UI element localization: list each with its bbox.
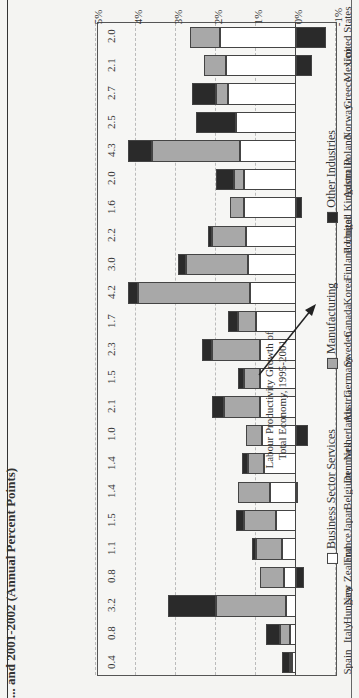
y-tick-label: 0% xyxy=(292,2,304,32)
total-growth-label: 2.3 xyxy=(105,336,117,362)
legend-label: Other Industries xyxy=(324,130,338,208)
bar-segment-manufacturing xyxy=(260,567,284,588)
bar-segment-manufacturing xyxy=(244,510,276,531)
bar-segment-business-sector-services xyxy=(282,538,296,559)
bar-segment-other-industries xyxy=(296,567,304,588)
legend: Business Sector ServicesManufacturingOth… xyxy=(324,70,339,564)
total-growth-label: 3.2 xyxy=(105,592,117,618)
bar-segment-manufacturing xyxy=(256,538,282,559)
bar-segment-manufacturing xyxy=(224,396,260,417)
total-growth-label: 1.7 xyxy=(105,308,117,334)
total-growth-label: 2.0 xyxy=(105,23,117,49)
bar-segment-business-sector-services xyxy=(284,567,296,588)
bar-segment-manufacturing xyxy=(230,197,244,218)
bar-segment-business-sector-services xyxy=(236,112,296,133)
bar-segment-other-industries xyxy=(192,83,216,104)
bar-segment-other-industries xyxy=(252,538,256,559)
bar-segment-other-industries xyxy=(236,510,244,531)
bar-segment-business-sector-services xyxy=(292,652,296,673)
bar-segment-manufacturing xyxy=(248,453,264,474)
bar-segment-other-industries xyxy=(216,169,234,190)
bar-segment-other-industries xyxy=(238,368,244,389)
total-growth-label: 3.0 xyxy=(105,251,117,277)
total-growth-label: 0.8 xyxy=(105,563,117,589)
bar-segment-manufacturing xyxy=(290,652,292,673)
y-tick-label: 2% xyxy=(212,2,224,32)
bar-segment-other-industries xyxy=(128,282,138,303)
bar-segment-other-industries xyxy=(266,624,280,645)
total-growth-label: 1.1 xyxy=(105,535,117,561)
bar-segment-business-sector-services xyxy=(228,83,296,104)
bar-segment-other-industries xyxy=(168,595,216,616)
bar-segment-business-sector-services xyxy=(286,595,296,616)
gridline xyxy=(175,23,176,675)
bar-segment-business-sector-services xyxy=(226,55,296,76)
bar-segment-other-industries xyxy=(202,339,212,360)
category-label: United States xyxy=(341,0,353,76)
bar-segment-business-sector-services xyxy=(240,140,296,161)
total-growth-label: 2.1 xyxy=(105,52,117,78)
total-growth-label: 2.5 xyxy=(105,109,117,135)
bar-segment-manufacturing xyxy=(212,226,246,247)
bar-segment-business-sector-services xyxy=(270,482,296,503)
gridline xyxy=(95,23,96,675)
total-growth-label: 2.0 xyxy=(105,165,117,191)
bar-segment-other-industries xyxy=(208,226,212,247)
total-growth-label: 1.6 xyxy=(105,194,117,220)
bar-segment-manufacturing xyxy=(216,83,228,104)
legend-swatch-icon xyxy=(327,212,338,223)
bar-segment-business-sector-services xyxy=(244,197,296,218)
bar-segment-manufacturing xyxy=(246,425,262,446)
bar-segment-manufacturing xyxy=(280,624,290,645)
total-growth-label: 0.4 xyxy=(105,649,117,675)
y-tick-label: 1% xyxy=(252,2,264,32)
total-growth-label: 1.5 xyxy=(105,507,117,533)
bar-segment-business-sector-services xyxy=(276,510,296,531)
total-growth-label: 1.4 xyxy=(105,450,117,476)
bar-segment-other-industries xyxy=(212,396,224,417)
bar-segment-business-sector-services xyxy=(244,169,296,190)
legend-item: Business Sector Services xyxy=(324,429,338,564)
bar-segment-manufacturing xyxy=(216,595,286,616)
legend-label: Business Sector Services xyxy=(324,429,338,549)
bar-segment-business-sector-services xyxy=(290,624,296,645)
y-tick-label: 5% xyxy=(92,2,104,32)
bar-segment-other-industries xyxy=(178,254,186,275)
bar-segment-manufacturing xyxy=(238,482,270,503)
total-growth-label: 2.1 xyxy=(105,393,117,419)
total-growth-label: 2.7 xyxy=(105,80,117,106)
bar-segment-other-industries xyxy=(296,55,312,76)
bar-segment-business-sector-services xyxy=(248,254,296,275)
chart-stage: ... and 2001-2002 (Annual Percent Points… xyxy=(0,0,359,698)
gridline xyxy=(135,23,136,675)
bar-segment-other-industries xyxy=(296,482,298,503)
total-growth-label: 1.5 xyxy=(105,364,117,390)
bar-segment-other-industries xyxy=(196,112,236,133)
total-growth-label: 2.2 xyxy=(105,222,117,248)
bar-segment-other-industries xyxy=(296,197,302,218)
total-growth-label: 4.3 xyxy=(105,137,117,163)
legend-item: Manufacturing xyxy=(324,283,338,369)
legend-item: Other Industries xyxy=(324,130,338,223)
legend-swatch-icon xyxy=(327,358,338,369)
bar-segment-manufacturing xyxy=(138,282,250,303)
bar-segment-other-industries xyxy=(228,311,238,332)
annotation-arrow-icon xyxy=(249,300,319,380)
bar-segment-manufacturing xyxy=(186,254,248,275)
bar-segment-other-industries xyxy=(242,453,248,474)
chart-title: ... and 2001-2002 (Annual Percent Points… xyxy=(3,0,21,698)
bar-segment-manufacturing xyxy=(204,55,226,76)
bar-segment-manufacturing xyxy=(234,169,244,190)
bar-segment-business-sector-services xyxy=(246,226,296,247)
bar-segment-other-industries xyxy=(128,140,152,161)
y-tick-label: 3% xyxy=(172,2,184,32)
total-growth-label: 4.2 xyxy=(105,279,117,305)
legend-swatch-icon xyxy=(327,553,338,564)
total-growth-label: 1.0 xyxy=(105,421,117,447)
total-growth-label: 1.4 xyxy=(105,478,117,504)
bar-segment-manufacturing xyxy=(152,140,240,161)
y-tick-label: 4% xyxy=(132,2,144,32)
bar-segment-other-industries xyxy=(296,425,308,446)
legend-label: Manufacturing xyxy=(324,283,338,354)
bar-segment-other-industries xyxy=(282,652,290,673)
